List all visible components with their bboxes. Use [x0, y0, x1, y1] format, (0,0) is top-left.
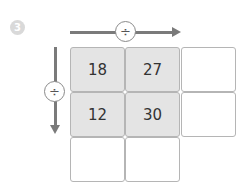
problem-number-badge: 3 [10, 20, 25, 35]
grid-cell-r1c1: 18 [70, 47, 125, 92]
grid-cell-r3c1-answer[interactable] [70, 137, 125, 182]
grid-cell-r1c3-answer[interactable] [181, 47, 236, 92]
grid-cell-r3c2-answer[interactable] [125, 137, 180, 182]
horizontal-divide-operator-icon: ÷ [115, 21, 136, 42]
right-arrow-head-icon [172, 27, 181, 37]
grid-cell-r1c2: 27 [125, 47, 180, 92]
grid-cell-r2c3-answer[interactable] [181, 92, 236, 137]
grid-cell-r2c1: 12 [70, 92, 125, 137]
grid-cell-r2c2: 30 [125, 92, 180, 137]
down-arrow-head-icon [50, 125, 60, 134]
vertical-divide-operator-icon: ÷ [44, 81, 65, 102]
